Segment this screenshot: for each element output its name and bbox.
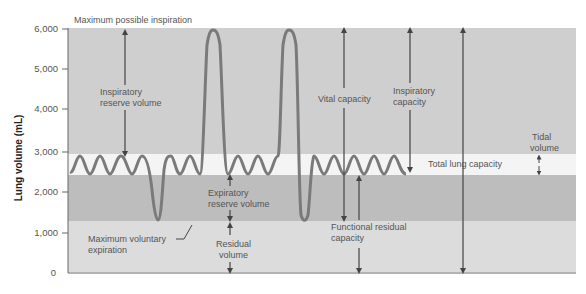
y-ticks bbox=[62, 29, 68, 233]
tick-6000: 6,000 bbox=[34, 23, 58, 34]
tick-0: 0 bbox=[51, 267, 56, 278]
spirometry-diagram: 6,000 5,000 4,000 3,000 2,000 1,000 0 Lu… bbox=[0, 0, 586, 294]
tick-3000: 3,000 bbox=[34, 146, 58, 157]
y-axis-title: Lung volume (mL) bbox=[13, 115, 24, 202]
rv-label: Residualvolume bbox=[216, 239, 251, 260]
tick-1000: 1,000 bbox=[34, 227, 58, 238]
tick-2000: 2,000 bbox=[34, 186, 58, 197]
band-expiratory-reserve bbox=[68, 175, 576, 221]
band-inspiratory-reserve bbox=[68, 28, 576, 154]
tlc-label: Total lung capacity bbox=[428, 159, 503, 169]
max-inspiration-label: Maximum possible inspiration bbox=[74, 15, 192, 25]
tick-4000: 4,000 bbox=[34, 103, 58, 114]
tick-5000: 5,000 bbox=[34, 63, 58, 74]
vc-label: Vital capacity bbox=[318, 94, 371, 104]
band-residual bbox=[68, 221, 576, 272]
